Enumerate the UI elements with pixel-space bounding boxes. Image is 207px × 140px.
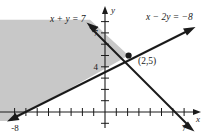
coordinate-plane: x y x + y = 7 x − 2y = −8 (2,5) 7 4 -8 7	[0, 0, 207, 140]
axis-label-y: y	[110, 5, 115, 15]
y-tick-label-7: 7	[94, 28, 99, 38]
intersection-point-label: (2,5)	[138, 56, 156, 67]
x-tick-label-7: 7	[182, 123, 187, 133]
line-x2y8-arrowhead-upper-right	[183, 27, 196, 36]
line-label-x-minus-2y-equals-neg8: x − 2y = −8	[145, 12, 193, 22]
intersection-point-dot	[126, 52, 132, 58]
axis-label-x: x	[195, 114, 200, 124]
y-tick-label-4: 4	[94, 62, 99, 72]
y-axis-arrowhead	[102, 6, 108, 14]
x-tick-label-neg8: -8	[11, 123, 19, 133]
graph-figure: x y x + y = 7 x − 2y = −8 (2,5) 7 4 -8 7	[0, 0, 207, 140]
line-label-x-plus-y-equals-7: x + y = 7	[49, 14, 87, 24]
